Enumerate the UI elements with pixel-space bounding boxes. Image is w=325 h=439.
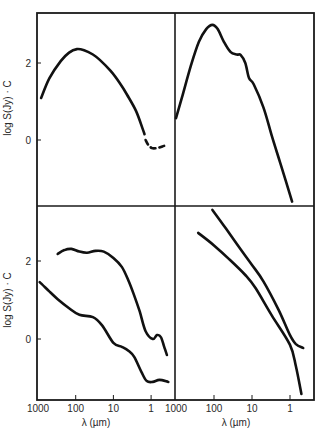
y-axis-label-bottom: log S(Jy) · C [2,272,13,328]
y-axis-label-top: log S(Jy) · C [2,80,13,136]
y-tick-label-top: 0 [25,135,31,146]
x-tick-label-right: 1000 [165,403,188,414]
sed-curves [40,25,304,394]
axis-ticks: 100010010110001001012020 [25,58,293,415]
y-tick-label-bottom: 2 [25,256,31,267]
x-tick-label-left: 1 [148,403,154,414]
x-tick-label-right: 1 [287,403,293,414]
sed-curve-bottom-left-1 [58,249,167,355]
y-tick-label-top: 2 [25,58,31,69]
sed-figure: 100010010110001001012020 log S(Jy) · C l… [0,0,325,439]
sed-curve-top-right-1 [176,25,292,202]
figure-caption-cutoff [60,431,320,439]
sed-curve-top-left-2 [146,140,167,148]
x-tick-label-left: 1000 [27,403,50,414]
x-tick-label-right: 10 [246,403,258,414]
sed-curve-top-left-1 [41,49,144,134]
plot-frame [37,13,314,400]
y-tick-label-bottom: 0 [25,334,31,345]
x-tick-label-left: 100 [67,403,84,414]
x-tick-label-right: 100 [206,403,223,414]
sed-curve-bottom-left-2 [40,282,169,382]
sed-curve-bottom-right-1 [212,210,303,348]
x-axis-label-right: λ (µm) [222,417,251,428]
sed-curve-bottom-right-2 [198,233,301,394]
x-axis-label-left: λ (µm) [82,417,111,428]
x-tick-label-left: 10 [108,403,120,414]
